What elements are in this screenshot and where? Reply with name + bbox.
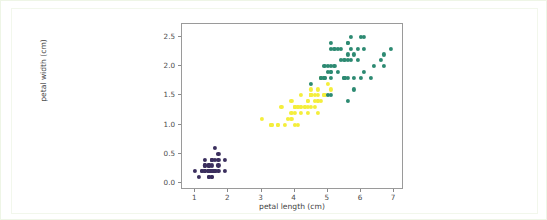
- data-point: [296, 122, 300, 126]
- y-tick-label: 0.5: [149, 148, 175, 157]
- data-point: [332, 64, 336, 68]
- data-point: [359, 76, 363, 80]
- data-point: [223, 169, 227, 173]
- data-point: [336, 70, 340, 74]
- data-point: [196, 175, 200, 179]
- data-point: [223, 158, 227, 162]
- data-point: [309, 82, 313, 86]
- matplotlib-figure: 1234567 0.00.51.01.52.02.5 petal length …: [1, 1, 547, 220]
- x-tick-label: 3: [246, 193, 276, 202]
- y-tick-label: 2.0: [149, 61, 175, 70]
- x-axis-label: petal length (cm): [181, 202, 403, 211]
- data-point: [269, 122, 273, 126]
- data-point: [362, 46, 366, 50]
- data-point: [276, 122, 280, 126]
- x-tick-label: 2: [212, 193, 242, 202]
- x-tick-mark: [261, 189, 262, 192]
- data-point: [309, 87, 313, 91]
- data-point: [329, 41, 333, 45]
- y-tick-label: 2.5: [149, 31, 175, 40]
- data-point: [319, 99, 323, 103]
- x-tick-mark: [294, 189, 295, 192]
- data-point: [213, 146, 217, 150]
- data-point: [352, 52, 356, 56]
- data-point: [346, 99, 350, 103]
- y-tick-label: 1.5: [149, 90, 175, 99]
- x-tick-mark: [227, 189, 228, 192]
- data-point: [349, 35, 353, 39]
- data-point: [283, 122, 287, 126]
- data-point: [352, 76, 356, 80]
- plot-area: [182, 24, 402, 188]
- data-point: [293, 111, 297, 115]
- data-point: [356, 58, 360, 62]
- scatter-plot-axes[interactable]: [181, 23, 403, 189]
- data-point: [216, 163, 220, 167]
- data-point: [299, 111, 303, 115]
- y-axis-label: petal width (cm): [39, 0, 48, 146]
- image-outer-border: 1234567 0.00.51.01.52.02.5 petal length …: [0, 0, 547, 220]
- data-point: [356, 46, 360, 50]
- data-point: [362, 70, 366, 74]
- x-tick-mark: [194, 189, 195, 192]
- data-point: [216, 152, 220, 156]
- x-tick-label: 5: [312, 193, 342, 202]
- x-tick-label: 1: [179, 193, 209, 202]
- data-point: [289, 99, 293, 103]
- data-point: [299, 93, 303, 97]
- x-tick-label: 6: [345, 193, 375, 202]
- y-tick-label: 1.0: [149, 119, 175, 128]
- y-tick-mark: [178, 36, 181, 37]
- data-point: [382, 52, 386, 56]
- data-point: [379, 58, 383, 62]
- data-point: [316, 93, 320, 97]
- data-point: [312, 105, 316, 109]
- x-tick-label: 7: [378, 193, 408, 202]
- y-tick-mark: [178, 94, 181, 95]
- data-point: [329, 76, 333, 80]
- data-point: [259, 117, 263, 121]
- data-point: [346, 41, 350, 45]
- x-tick-mark: [327, 189, 328, 192]
- data-point: [369, 76, 373, 80]
- data-point: [349, 46, 353, 50]
- y-tick-mark: [178, 65, 181, 66]
- x-tick-mark: [360, 189, 361, 192]
- data-point: [339, 46, 343, 50]
- data-point: [362, 35, 366, 39]
- data-point: [316, 111, 320, 115]
- data-point: [346, 52, 350, 56]
- data-point: [306, 111, 310, 115]
- data-point: [316, 87, 320, 91]
- data-point: [389, 46, 393, 50]
- y-tick-label: 0.0: [149, 177, 175, 186]
- x-tick-label: 4: [279, 193, 309, 202]
- y-tick-mark: [178, 124, 181, 125]
- y-tick-mark: [178, 182, 181, 183]
- data-point: [326, 82, 330, 86]
- data-point: [382, 64, 386, 68]
- data-point: [329, 93, 333, 97]
- data-point: [203, 158, 207, 162]
- data-point: [306, 99, 310, 103]
- y-tick-mark: [178, 153, 181, 154]
- data-point: [279, 105, 283, 109]
- data-point: [352, 87, 356, 91]
- x-tick-mark: [393, 189, 394, 192]
- data-point: [329, 87, 333, 91]
- data-point: [372, 64, 376, 68]
- data-point: [193, 169, 197, 173]
